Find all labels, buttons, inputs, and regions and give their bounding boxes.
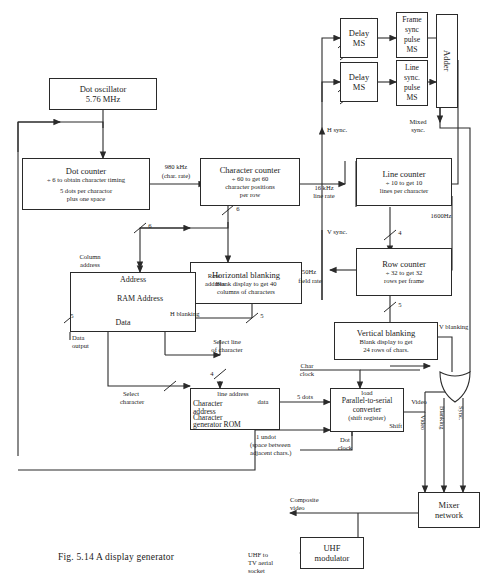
line-counter-title: Line counter	[382, 169, 425, 179]
mixer-line1: Mixer	[439, 500, 460, 510]
label-dot-clock-1: Dot	[330, 436, 360, 444]
row-counter-line3: rows per frame	[384, 277, 424, 285]
block-dot-oscillator[interactable]: Dot oscillator 5.76 MHz	[49, 78, 157, 110]
horizontal-blanking-line3: columns of characters	[217, 288, 275, 296]
frame-sync-line3: pulse	[404, 35, 420, 45]
bus-width-ram-out: 5	[66, 312, 78, 320]
rom-generator-label: generator ROM	[193, 421, 273, 429]
line-sync-line1: Line	[405, 63, 419, 73]
line-counter-line2: ÷ 10 to get 10	[386, 179, 423, 187]
line-counter-line3: lines per character	[380, 187, 428, 195]
label-v-blanking: V blanking	[439, 323, 489, 331]
frame-sync-line4: MS	[407, 45, 418, 55]
delay-ms-1-line2: MS	[353, 38, 365, 48]
dot-oscillator-title: Dot oscillator	[80, 84, 127, 94]
character-counter-line3: character positions	[225, 183, 275, 191]
label-select-line-2: of character	[196, 346, 258, 354]
label-16khz: 16 kHz	[302, 184, 346, 192]
label-1600hz: 1600Hz	[420, 212, 462, 220]
display-generator-diagram: Dot oscillator 5.76 MHz Dot counter ÷ 6 …	[0, 0, 491, 587]
label-data-output-2: output	[72, 342, 108, 350]
uhf-line1: UHF	[323, 543, 340, 553]
label-char-rate: (char. rate)	[150, 172, 202, 180]
parallel-to-serial-line3: (shift register)	[330, 414, 404, 422]
rom-data-label: data	[248, 398, 278, 406]
ram-address-top-label: Address	[88, 276, 178, 284]
dot-counter-title: Dot counter	[66, 166, 106, 176]
adder-title: Adder	[442, 50, 452, 71]
label-mixed-sync-1: Mixed	[398, 118, 438, 126]
label-field-rate: field rate	[288, 277, 332, 285]
label-video: Video	[404, 398, 434, 406]
label-980khz: 980 kHz	[152, 163, 200, 171]
delay-ms-2-line2: MS	[353, 82, 365, 92]
row-counter-title: Row counter	[382, 259, 426, 269]
label-select-line-1: Select line	[198, 338, 256, 346]
bus-width-row-address: 5	[256, 312, 268, 320]
label-1-undot-3: adjacent chars.)	[250, 449, 332, 457]
parallel-to-serial-line2: converter	[330, 406, 404, 414]
frame-sync-line2: sync	[405, 25, 419, 35]
label-composite-video-2: video	[290, 504, 348, 512]
line-sync-line4: MS	[407, 93, 418, 103]
block-delay-ms-line[interactable]: Delay MS	[340, 62, 378, 102]
uhf-line2: modulator	[315, 553, 350, 563]
parallel-to-serial-title: Parallel-to-serial	[328, 397, 406, 405]
label-50hz: 50Hz	[290, 268, 328, 276]
row-counter-line2: ÷ 32 to get 32	[386, 269, 423, 277]
vertical-blanking-title: Vertical blanking	[357, 328, 415, 338]
label-1-undot-1: 1 undot	[256, 433, 326, 441]
delay-ms-2-line1: Delay	[349, 72, 369, 82]
character-counter-line4: per row	[240, 191, 260, 199]
label-sync-vertical: Sync.	[458, 406, 465, 446]
label-1-undot-2: (space between	[250, 441, 330, 449]
bus-width-select-line: 4	[206, 370, 218, 378]
frame-sync-line1: Frame	[402, 15, 421, 25]
block-adder[interactable]: Adder	[436, 14, 458, 108]
label-char-clock-2: clock	[288, 370, 326, 378]
dot-oscillator-freq: 5.76 MHz	[86, 94, 120, 104]
bus-width-char-counter: 6	[232, 205, 244, 213]
block-delay-ms-frame[interactable]: Delay MS	[340, 18, 378, 58]
dot-counter-line2: ÷ 6 to obtain character timing	[47, 176, 125, 184]
or-gate-shape	[440, 372, 470, 402]
block-frame-sync-pulse-ms[interactable]: Frame sync pulse MS	[396, 12, 428, 58]
label-select-character-2: character	[104, 398, 160, 406]
label-line-rate: line rate	[302, 192, 346, 200]
label-uhf-out-3: socket	[248, 567, 296, 575]
label-data-output-1: Data	[72, 334, 108, 342]
label-char-clock-1: Char	[290, 362, 324, 370]
line-sync-line2: sync.	[404, 73, 420, 83]
ram-data-label: Data	[88, 319, 158, 327]
label-uhf-out-1: UHF to	[248, 551, 296, 559]
mixer-line2: network	[435, 510, 463, 520]
label-5-dots: 5 dots	[286, 393, 324, 401]
rom-line-address-label: line address	[196, 390, 270, 398]
dot-counter-line3: 5 dots per charactor	[60, 187, 112, 195]
block-dot-counter[interactable]: Dot counter ÷ 6 to obtain character timi…	[22, 158, 150, 210]
label-mixed-sync-2: sync.	[398, 126, 438, 134]
block-uhf-modulator[interactable]: UHF modulator	[300, 537, 364, 569]
label-h-blanking: H blanking	[170, 310, 224, 318]
label-blanking-vertical: Blanking	[439, 406, 446, 454]
label-column-address-2: address	[66, 261, 114, 269]
block-line-counter[interactable]: Line counter ÷ 10 to get 10 lines per ch…	[356, 158, 452, 206]
label-v-sync: V sync.	[327, 228, 367, 236]
block-row-counter[interactable]: Row counter ÷ 32 to get 32 rows per fram…	[356, 248, 452, 296]
block-character-counter[interactable]: Character counter ÷ 60 to get 60 charact…	[200, 158, 300, 206]
label-row-address-1: Row	[196, 272, 232, 280]
vertical-blanking-line3: 24 rows of chars.	[363, 346, 408, 354]
label-video-vertical: Video	[420, 415, 427, 455]
bus-width-row-counter: 5	[394, 301, 406, 309]
block-line-sync-pulse-ms[interactable]: Line sync. pulse MS	[396, 60, 428, 106]
character-counter-title: Character counter	[220, 165, 281, 175]
bus-width-line-counter: 4	[394, 229, 406, 237]
vertical-blanking-line2: Blank display to get	[360, 338, 413, 346]
label-h-sync: H sync.	[327, 126, 367, 134]
block-vertical-blanking[interactable]: Vertical blanking Blank display to get 2…	[334, 322, 438, 360]
label-dot-clock-2: clock	[328, 444, 362, 452]
ram-center-label: RAM Address	[84, 295, 196, 303]
line-sync-line3: pulse	[404, 83, 420, 93]
character-counter-line2: ÷ 60 to get 60	[232, 175, 269, 183]
block-mixer-network[interactable]: Mixer network	[418, 492, 480, 528]
